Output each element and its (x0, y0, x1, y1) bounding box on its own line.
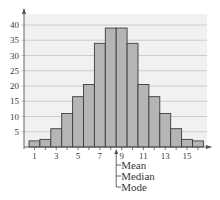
histogram-bar (51, 129, 62, 147)
x-tick-label: 5 (76, 151, 81, 161)
histogram-bar (171, 129, 182, 147)
x-axis-tick-labels: 13579111315 (32, 151, 192, 161)
histogram-bar (149, 97, 160, 147)
y-tick-label: 35 (10, 35, 20, 45)
x-tick-label: 3 (54, 151, 59, 161)
histogram-bar (105, 28, 116, 147)
y-tick-label: 20 (10, 81, 20, 91)
histogram-bar (182, 139, 193, 147)
y-tick-label: 40 (10, 20, 20, 30)
y-tick-label: 30 (10, 51, 20, 61)
histogram-bar (127, 43, 138, 147)
histogram-bar (138, 84, 149, 147)
histogram-bar (62, 113, 73, 147)
x-axis-arrow-icon (206, 145, 212, 149)
y-axis-tick-labels: 510152025303540 (10, 20, 20, 137)
y-tick-label: 5 (15, 127, 20, 137)
x-tick-label: 7 (98, 151, 103, 161)
annotation-label-mode: Mode (121, 181, 147, 193)
histogram-chart: 510152025303540 13579111315 MeanMedianMo… (0, 0, 220, 200)
x-tick-label: 1 (32, 151, 37, 161)
histogram-bar (84, 84, 95, 147)
y-tick-label: 10 (10, 112, 20, 122)
histogram-bar (193, 141, 204, 147)
histogram-bar (73, 97, 84, 147)
y-tick-label: 25 (10, 66, 20, 76)
x-tick-label: 13 (161, 151, 171, 161)
histogram-bar (160, 113, 171, 147)
x-tick-label: 15 (183, 151, 193, 161)
histogram-bar (94, 43, 105, 147)
y-axis-arrow-icon (22, 8, 26, 14)
histogram-bar (116, 28, 127, 147)
histogram-bar (40, 139, 51, 147)
y-tick-label: 15 (10, 96, 20, 106)
histogram-bar (29, 141, 40, 147)
